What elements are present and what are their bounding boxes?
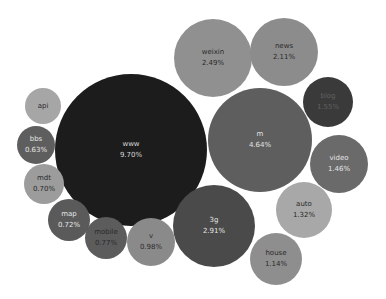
- bubble-label: 3g: [210, 215, 219, 226]
- bubble-value: 1.55%: [317, 102, 339, 113]
- bubble-label: blog: [320, 91, 335, 102]
- bubble-label: mobile: [94, 227, 118, 238]
- bubble-label: map: [61, 209, 77, 220]
- bubble-value: 1.32%: [293, 210, 315, 221]
- bubble-v[interactable]: v0.98%: [127, 218, 175, 266]
- bubble-chart: www9.70%m4.64%3g2.91%weixin2.49%news2.11…: [0, 0, 386, 299]
- bubble-value: 0.63%: [25, 145, 47, 156]
- bubble-m[interactable]: m4.64%: [208, 88, 312, 192]
- bubble-value: 2.49%: [202, 58, 224, 69]
- bubble-value: 2.91%: [203, 226, 225, 237]
- bubble-value: 4.64%: [249, 140, 271, 151]
- bubble-label: weixin: [202, 47, 225, 58]
- bubble-weixin[interactable]: weixin2.49%: [174, 19, 252, 97]
- bubble-label: www: [122, 139, 139, 150]
- bubble-label: video: [329, 153, 348, 164]
- bubble-value: 0.72%: [58, 220, 80, 231]
- bubble-label: auto: [296, 199, 312, 210]
- bubble-blog[interactable]: blog1.55%: [303, 77, 353, 127]
- bubble-value: 2.11%: [273, 52, 295, 63]
- bubble-label: news: [275, 41, 293, 52]
- bubble-label: m: [257, 129, 264, 140]
- bubble-label: v: [149, 231, 153, 242]
- bubble-auto[interactable]: auto1.32%: [276, 182, 332, 238]
- bubble-value: 9.70%: [120, 150, 142, 161]
- bubble-mdt[interactable]: mdt0.70%: [24, 164, 64, 204]
- bubble-3g[interactable]: 3g2.91%: [173, 185, 255, 267]
- bubble-mobile[interactable]: mobile0.77%: [85, 217, 127, 259]
- bubble-bbs[interactable]: bbs0.63%: [17, 126, 55, 164]
- bubble-video[interactable]: video1.46%: [310, 135, 368, 193]
- bubble-map[interactable]: map0.72%: [48, 199, 90, 241]
- bubble-value: 0.77%: [95, 238, 117, 249]
- bubble-api[interactable]: api: [25, 88, 61, 124]
- bubble-value: 1.14%: [265, 259, 287, 270]
- bubble-house[interactable]: house1.14%: [250, 233, 302, 285]
- bubble-value: 1.46%: [328, 164, 350, 175]
- bubble-label: mdt: [37, 173, 51, 184]
- bubble-value: 0.70%: [33, 184, 55, 195]
- bubble-news[interactable]: news2.11%: [250, 18, 318, 86]
- bubble-label: bbs: [30, 134, 43, 145]
- bubble-label: house: [265, 248, 286, 259]
- bubble-label: api: [38, 101, 49, 112]
- bubble-value: 0.98%: [140, 242, 162, 253]
